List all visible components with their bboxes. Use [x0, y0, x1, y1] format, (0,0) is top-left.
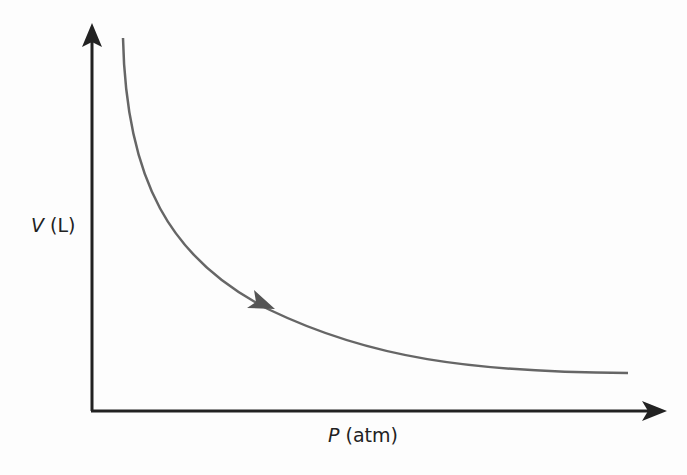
- x-axis-variable: P: [328, 424, 339, 446]
- y-axis-unit: (L): [50, 214, 75, 236]
- x-axis-label: P (atm): [328, 424, 398, 446]
- isotherm-curve: [123, 38, 628, 373]
- diagram-canvas: V (L) P (atm): [0, 0, 687, 475]
- x-axis-unit: (atm): [346, 424, 398, 446]
- pv-diagram: [0, 0, 687, 475]
- y-axis-variable: V: [31, 214, 44, 236]
- y-axis-label: V (L): [31, 214, 75, 236]
